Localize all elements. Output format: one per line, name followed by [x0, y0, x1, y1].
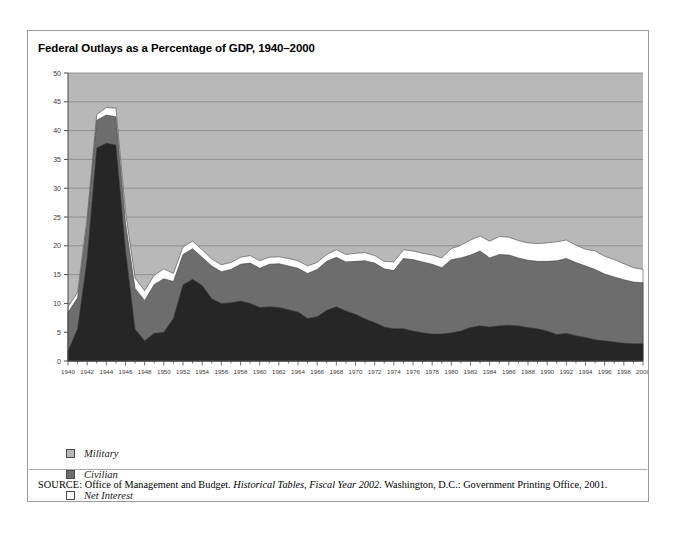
- x-axis-tick-label: 1960: [253, 368, 267, 375]
- x-axis-tick-label: 1992: [559, 368, 573, 375]
- x-axis-tick-label: 1954: [195, 368, 209, 375]
- x-axis-tick-label: 1944: [99, 368, 113, 375]
- x-axis-tick-label: 1990: [540, 368, 554, 375]
- y-axis-tick-label: 10: [53, 300, 61, 307]
- x-axis-tick-label: 1964: [291, 368, 305, 375]
- x-axis-tick-label: 1942: [80, 368, 94, 375]
- x-axis-tick-label: 1974: [387, 368, 401, 375]
- x-axis-tick-label: 1958: [234, 368, 248, 375]
- x-axis-tick-label: 1984: [483, 368, 497, 375]
- legend-label-military: Military: [84, 448, 118, 459]
- y-axis-tick-label: 30: [53, 185, 61, 192]
- x-axis-tick-label: 1956: [214, 368, 228, 375]
- x-axis-tick-label: 1986: [502, 368, 516, 375]
- source-kicker: SOURCE:: [38, 479, 82, 490]
- x-axis-tick-label: 1976: [406, 368, 420, 375]
- x-axis-tick-label: 1972: [368, 368, 382, 375]
- stacked-area-chart: 0510152025303540455019401942194419461948…: [34, 67, 648, 389]
- x-axis-tick-label: 1946: [119, 368, 133, 375]
- chart-legend: Military Civilian Net Interest: [66, 443, 306, 506]
- x-axis-tick-label: 1980: [444, 368, 458, 375]
- y-axis-tick-label: 50: [53, 70, 61, 77]
- legend-swatch-net-interest: [66, 491, 75, 500]
- x-axis-tick-label: 1988: [521, 368, 535, 375]
- legend-swatch-military: [66, 449, 75, 458]
- y-axis-tick-label: 25: [53, 214, 61, 221]
- x-axis-tick-label: 1978: [425, 368, 439, 375]
- source-text-part2: Washington, D.C.: Government Printing Of…: [382, 479, 608, 490]
- x-axis-tick-label: 1968: [329, 368, 343, 375]
- source-divider: [29, 469, 647, 470]
- x-axis-tick-label: 1996: [598, 368, 612, 375]
- legend-label-net-interest: Net Interest: [84, 490, 133, 501]
- x-axis-tick-label: 1940: [61, 368, 75, 375]
- figure-title: Federal Outlays as a Percentage of GDP, …: [38, 42, 315, 54]
- source-text-part1: Office of Management and Budget.: [82, 479, 233, 490]
- y-axis-tick-label: 5: [57, 329, 61, 336]
- x-axis-tick-label: 1952: [176, 368, 190, 375]
- x-axis-tick-label: 1948: [138, 368, 152, 375]
- source-text-italic: Historical Tables, Fiscal Year 2002.: [233, 479, 382, 490]
- y-axis-tick-label: 20: [53, 242, 61, 249]
- x-axis-tick-label: 1966: [310, 368, 324, 375]
- x-axis-tick-label: 1962: [272, 368, 286, 375]
- x-axis-tick-label: 2000: [636, 368, 648, 375]
- y-axis-tick-label: 0: [57, 358, 61, 365]
- x-axis-tick-label: 1998: [617, 368, 631, 375]
- legend-item-military[interactable]: Military: [66, 443, 306, 464]
- chart-plot-area: 0510152025303540455019401942194419461948…: [34, 67, 648, 389]
- y-axis-tick-label: 40: [53, 127, 61, 134]
- figure-container: Federal Outlays as a Percentage of GDP, …: [27, 30, 649, 502]
- y-axis-tick-label: 45: [53, 98, 61, 105]
- x-axis-tick-label: 1950: [157, 368, 171, 375]
- x-axis-tick-label: 1982: [464, 368, 478, 375]
- x-axis-tick-label: 1994: [579, 368, 593, 375]
- y-axis-tick-label: 15: [53, 271, 61, 278]
- y-axis-tick-label: 35: [53, 156, 61, 163]
- source-note: SOURCE: Office of Management and Budget.…: [38, 478, 640, 491]
- x-axis-tick-label: 1970: [349, 368, 363, 375]
